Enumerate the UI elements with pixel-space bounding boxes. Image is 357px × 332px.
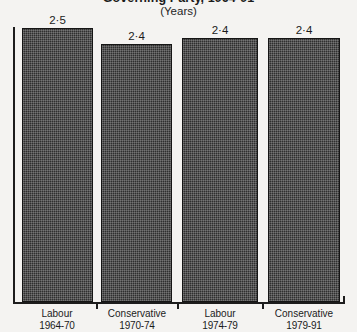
x-axis-line [13, 302, 345, 304]
bar-value-label: 2·4 [101, 30, 172, 43]
bar-conservative-1970-74 [101, 44, 172, 302]
bar-value-label: 2·4 [268, 24, 340, 37]
plot-area: 2·5 2·4 2·4 2·4 Labour 1964-70 Conservat… [0, 0, 357, 332]
bar-labour-1974-79 [182, 38, 258, 302]
x-axis-label-years: 1970-74 [96, 320, 178, 332]
bar-value-label: 2·4 [182, 24, 258, 37]
y-axis-line [13, 27, 15, 303]
x-axis-label-party: Labour [17, 308, 97, 320]
x-axis-label-party: Conservative [262, 308, 346, 320]
x-axis-label-party: Conservative [96, 308, 178, 320]
x-axis-label-years: 1979-91 [262, 320, 346, 332]
x-axis-label-years: 1974-79 [180, 320, 260, 332]
x-axis-label-party: Labour [180, 308, 260, 320]
bar-labour-1964-70 [22, 28, 93, 302]
bar-conservative-1979-91 [268, 38, 340, 302]
x-axis-label-labour-1964-70: Labour 1964-70 [17, 308, 97, 331]
x-axis-left-cap [13, 296, 15, 304]
x-axis-label-years: 1964-70 [17, 320, 97, 332]
x-axis-right-cap [343, 296, 345, 304]
x-axis-label-labour-1974-79: Labour 1974-79 [180, 308, 260, 331]
bar-value-label: 2·5 [22, 14, 93, 27]
chart-page: Governing Party, 1964-91 (Years) 2·5 2·4… [0, 0, 357, 332]
x-axis-label-conservative-1979-91: Conservative 1979-91 [262, 308, 346, 331]
x-axis-label-conservative-1970-74: Conservative 1970-74 [96, 308, 178, 331]
